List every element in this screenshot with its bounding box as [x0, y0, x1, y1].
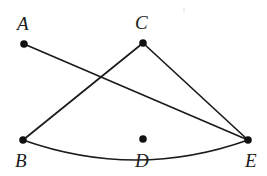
point-label-b: B — [15, 151, 27, 170]
point-d-dot — [139, 135, 147, 143]
figure-canvas — [0, 0, 267, 176]
point-a-dot — [20, 40, 28, 48]
point-b-dot — [19, 136, 27, 144]
geometry-figure: A C B D E — [0, 0, 267, 176]
point-label-a: A — [17, 14, 29, 33]
scan-speck-artifact — [183, 8, 185, 12]
segment-c-to-e — [143, 43, 248, 140]
segment-c-to-b — [23, 43, 143, 140]
point-label-c: C — [135, 13, 148, 32]
point-c-dot — [139, 39, 147, 47]
point-e-dot — [244, 136, 252, 144]
segment-a-to-e — [24, 44, 248, 140]
point-label-d: D — [135, 151, 149, 170]
point-label-e: E — [245, 151, 257, 170]
